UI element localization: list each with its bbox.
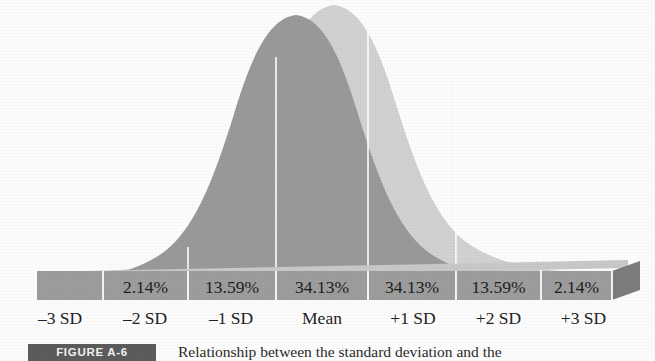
axis-label-minus-3-sd: –3 SD — [18, 305, 102, 331]
figure-caption-text: Relationship between the standard deviat… — [178, 342, 648, 361]
bell-curve-graphic — [0, 0, 655, 310]
axis-label-plus-3-sd: +3 SD — [541, 305, 626, 331]
base-slab — [37, 260, 640, 300]
axis-label-plus-1-sd: +1 SD — [370, 305, 456, 331]
normal-distribution-figure: 2.14% 13.59% 34.13% 34.13% 13.59% 2.14% … — [0, 0, 655, 361]
figure-caption: FIGURE A-6 Relationship between the stan… — [0, 341, 655, 361]
base-slab-front — [37, 271, 612, 300]
axis-label-mean: Mean — [276, 305, 368, 331]
axis-label-plus-2-sd: +2 SD — [456, 305, 541, 331]
sd-axis-labels: –3 SD –2 SD –1 SD Mean +1 SD +2 SD +3 SD — [0, 305, 655, 331]
figure-number-badge: FIGURE A-6 — [28, 344, 156, 361]
axis-label-minus-1-sd: –1 SD — [188, 305, 274, 331]
axis-label-minus-2-sd: –2 SD — [103, 305, 187, 331]
